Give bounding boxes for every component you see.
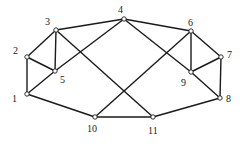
node-7: [219, 55, 223, 59]
node-11: [151, 115, 155, 119]
edge-6-10: [95, 31, 191, 117]
node-5: [53, 69, 57, 73]
node-4: [122, 17, 126, 21]
node-label-11: 11: [148, 126, 158, 136]
node-2: [25, 55, 29, 59]
node-label-2: 2: [13, 46, 18, 56]
edge-4-5: [55, 19, 124, 71]
edge-9-8: [191, 72, 220, 98]
node-1: [25, 92, 29, 96]
node-label-5: 5: [60, 75, 65, 85]
edge-4-6: [124, 19, 191, 31]
edge-3-4: [56, 19, 124, 30]
node-label-8: 8: [226, 94, 231, 104]
node-8: [218, 96, 222, 100]
node-label-6: 6: [188, 18, 193, 28]
node-label-1: 1: [12, 94, 17, 104]
edge-2-3: [27, 30, 56, 57]
edge-1-5: [27, 71, 55, 94]
edge-7-9: [191, 57, 221, 72]
node-label-10: 10: [87, 124, 97, 134]
graph-diagram: 1234567891011: [0, 0, 243, 150]
edge-1-10: [27, 94, 95, 117]
graph-edges: [0, 0, 243, 150]
node-label-7: 7: [227, 50, 232, 60]
node-label-9: 9: [181, 78, 186, 88]
edge-7-8: [220, 57, 221, 98]
edge-8-11: [153, 98, 220, 117]
edge-3-11: [56, 30, 153, 117]
edge-3-5: [55, 30, 56, 71]
node-10: [93, 115, 97, 119]
node-label-3: 3: [45, 17, 50, 27]
node-label-4: 4: [118, 5, 123, 15]
node-6: [189, 29, 193, 33]
node-3: [54, 28, 58, 32]
edge-2-5: [27, 57, 55, 71]
node-9: [189, 70, 193, 74]
edge-6-7: [191, 31, 221, 57]
edge-4-9: [124, 19, 191, 72]
